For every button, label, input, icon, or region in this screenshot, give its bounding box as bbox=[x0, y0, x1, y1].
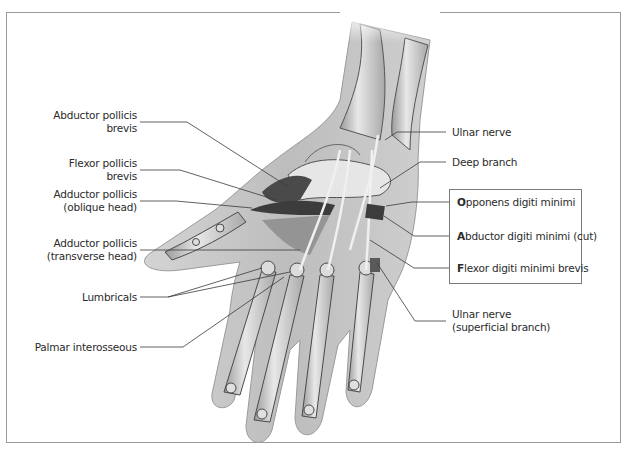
label-line: Flexor pollicis bbox=[69, 157, 137, 170]
label-abductor-digiti-minimi: Abductor digiti minimi (cut) bbox=[457, 230, 597, 242]
label-line: brevis bbox=[53, 122, 137, 135]
label-line: Ulnar nerve bbox=[452, 308, 550, 321]
label-ulnar-nerve: Ulnar nerve bbox=[452, 126, 511, 139]
label-line: Adductor pollicis bbox=[53, 188, 137, 201]
label-abductor-pollicis-brevis: Abductor pollicis brevis bbox=[53, 109, 137, 135]
label-line: Lumbricals bbox=[82, 291, 137, 304]
label-line: (oblique head) bbox=[53, 201, 137, 214]
label-initial: O bbox=[457, 196, 466, 208]
label-adductor-pollicis-transverse: Adductor pollicis (transverse head) bbox=[47, 237, 137, 263]
label-line: (superficial branch) bbox=[452, 321, 550, 334]
label-text: bductor digiti minimi (cut) bbox=[465, 230, 597, 242]
label-line: Palmar interosseous bbox=[35, 341, 137, 354]
label-flexor-digiti-minimi-brevis: Flexor digiti minimi brevis bbox=[457, 262, 589, 274]
label-text: lexor digiti minimi brevis bbox=[464, 262, 589, 274]
label-line: Adductor pollicis bbox=[47, 237, 137, 250]
label-line: brevis bbox=[69, 170, 137, 183]
label-text: pponens digiti minimi bbox=[466, 196, 576, 208]
label-line: Deep branch bbox=[452, 156, 517, 169]
label-initial: F bbox=[457, 262, 464, 274]
label-line: Abductor pollicis bbox=[53, 109, 137, 122]
label-line: Ulnar nerve bbox=[452, 126, 511, 139]
label-flexor-pollicis-brevis: Flexor pollicis brevis bbox=[69, 157, 137, 183]
label-deep-branch: Deep branch bbox=[452, 156, 517, 169]
label-initial: A bbox=[457, 230, 465, 242]
label-opponens-digiti-minimi: Opponens digiti minimi bbox=[457, 196, 575, 208]
label-adductor-pollicis-oblique: Adductor pollicis (oblique head) bbox=[53, 188, 137, 214]
label-ulnar-nerve-superficial: Ulnar nerve (superficial branch) bbox=[452, 308, 550, 334]
label-palmar-interosseous: Palmar interosseous bbox=[35, 341, 137, 354]
label-lumbricals: Lumbricals bbox=[82, 291, 137, 304]
label-line: (transverse head) bbox=[47, 250, 137, 263]
hypothenar-label-box: Opponens digiti minimi Abductor digiti m… bbox=[449, 189, 582, 284]
